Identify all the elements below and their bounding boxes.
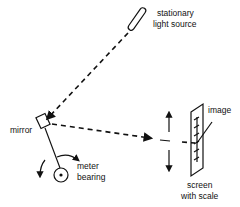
- image-label: image: [208, 105, 231, 115]
- light-source-label-2: light source: [153, 19, 197, 29]
- light-source-label-1: stationary: [157, 8, 195, 18]
- scale-ticks: [194, 117, 199, 162]
- image-leader: [197, 122, 212, 143]
- meter-label-1: meter: [77, 161, 99, 171]
- meter-label-2: bearing: [77, 172, 106, 182]
- rotation-arrow-icon: [57, 155, 78, 160]
- mirror-label: mirror: [10, 125, 32, 135]
- incident-beam: [48, 33, 128, 118]
- screen-label-1: screen: [187, 180, 213, 190]
- swing-arrow-icon: [40, 160, 45, 176]
- reflected-beam: [52, 124, 150, 138]
- light-source-icon: [127, 7, 147, 32]
- beam-to-screen: [182, 142, 195, 143]
- mirror-icon: [36, 113, 50, 128]
- optical-lever-diagram: stationary light source mirror meter bea…: [0, 0, 240, 207]
- beam-dash: [160, 140, 170, 141]
- pointer-arm: [45, 128, 60, 168]
- screen-label-2: with scale: [180, 191, 219, 201]
